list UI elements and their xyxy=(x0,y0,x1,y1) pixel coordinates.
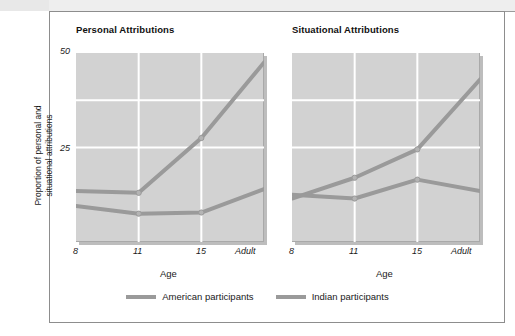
data-point-marker xyxy=(199,135,204,140)
x-axis-label-situational: Age xyxy=(376,268,393,279)
legend-label-american: American participants xyxy=(162,291,253,302)
x-tick-personal-11: 11 xyxy=(133,246,142,256)
plot-panel-personal xyxy=(76,53,264,242)
y-tick-25: 25 xyxy=(48,143,70,153)
x-tick-situational-11: 11 xyxy=(349,246,358,256)
data-point-marker xyxy=(199,210,204,215)
legend-swatch-icon-indian xyxy=(276,295,306,299)
data-point-marker xyxy=(352,175,357,180)
x-tick-situational-15: 15 xyxy=(412,246,422,256)
panel-title-situational: Situational Attributions xyxy=(292,24,399,35)
series-american-personal xyxy=(76,62,264,195)
x-axis-label-personal: Age xyxy=(160,268,177,279)
data-point-marker xyxy=(415,147,420,152)
y-axis-label: Proportion of personal and situational a… xyxy=(33,61,54,251)
x-tick-personal-adult: Adult xyxy=(235,246,256,256)
panel-title-personal: Personal Attributions xyxy=(76,24,174,35)
legend-item-american: American participants xyxy=(126,291,253,302)
data-point-marker xyxy=(136,211,141,216)
top-strip xyxy=(0,0,515,11)
x-tick-personal-15: 15 xyxy=(196,246,206,256)
legend-label-indian: Indian participants xyxy=(312,291,389,302)
y-tick-50: 50 xyxy=(48,46,70,56)
data-point-marker xyxy=(136,190,141,195)
y-axis-label-line2: situational attributions xyxy=(43,61,54,251)
series-american-situational xyxy=(292,79,480,198)
data-point-marker xyxy=(352,196,357,201)
figure-root: Personal Attributions Situational Attrib… xyxy=(0,0,515,336)
x-tick-situational-adult: Adult xyxy=(451,246,472,256)
x-tick-situational-8: 8 xyxy=(289,246,294,256)
gridlines-situational xyxy=(292,53,480,242)
legend: American participants Indian participant… xyxy=(0,291,515,302)
plot-svg-situational xyxy=(292,53,480,242)
legend-swatch-icon-american xyxy=(126,295,156,299)
x-tick-personal-8: 8 xyxy=(73,246,78,256)
plot-svg-personal xyxy=(76,53,264,242)
data-point-marker xyxy=(415,177,420,182)
y-axis-label-line1: Proportion of personal and xyxy=(33,61,44,251)
plot-panel-situational xyxy=(292,53,480,242)
legend-item-indian: Indian participants xyxy=(276,291,389,302)
